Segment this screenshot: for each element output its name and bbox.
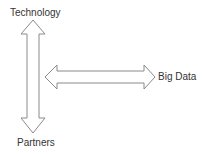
label-partners: Partners: [17, 138, 55, 148]
label-big-data: Big Data: [158, 72, 196, 82]
vertical-double-arrow-icon: [21, 20, 45, 133]
diagram-canvas: Technology Big Data Partners: [0, 0, 204, 154]
horizontal-double-arrow-icon: [45, 65, 155, 89]
